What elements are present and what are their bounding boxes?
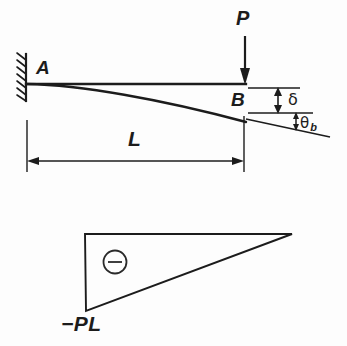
tangent-slope-line [246, 119, 330, 137]
deflected-beam-curve [27, 84, 246, 122]
rotation-label-theta: θ [300, 114, 309, 132]
free-end-label-b: B [231, 90, 245, 109]
span-label-l: L [128, 128, 141, 149]
load-label-p: P [236, 8, 249, 28]
support-hatching [17, 53, 26, 101]
bending-moment-triangle [85, 234, 292, 311]
fixed-support-wall [17, 53, 26, 101]
load-arrow-p [240, 36, 250, 85]
span-arrow-left [27, 157, 39, 165]
negative-sign-icon [104, 251, 127, 274]
rotation-label-subscript: b [310, 121, 317, 133]
figure-canvas [0, 0, 347, 346]
delta-dimension-arrow [274, 87, 282, 114]
moment-value-label: −PL [61, 313, 102, 334]
deflection-label-delta: δ [288, 92, 298, 108]
rotation-label-theta-b: θb [300, 116, 317, 133]
theta-dimension-arrow [293, 112, 299, 131]
span-arrow-right [232, 157, 244, 165]
support-label-a: A [36, 58, 50, 77]
figure-root: A B P L δ θb −PL [0, 0, 347, 346]
